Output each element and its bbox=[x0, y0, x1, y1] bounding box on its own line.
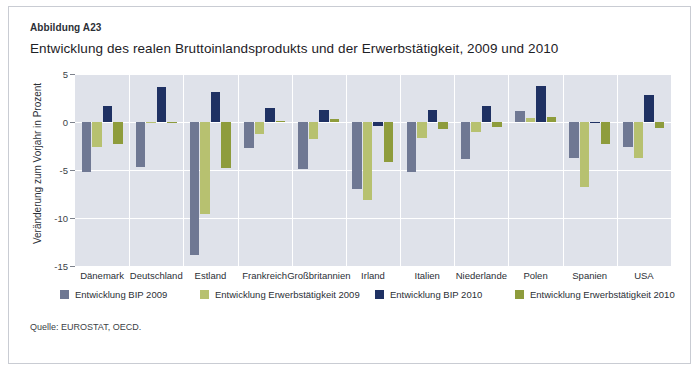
x-axis-label: Niederlande bbox=[456, 270, 507, 281]
legend-label: Entwicklung BIP 2009 bbox=[75, 289, 167, 300]
bar bbox=[461, 122, 471, 159]
bar bbox=[352, 122, 362, 189]
legend-item[interactable]: Entwicklung BIP 2010 bbox=[375, 289, 482, 300]
bar bbox=[471, 122, 481, 132]
chart-legend: Entwicklung BIP 2009Entwicklung Erwerbst… bbox=[60, 289, 680, 303]
gridline--15 bbox=[75, 266, 671, 267]
legend-swatch-icon bbox=[515, 290, 524, 299]
bar bbox=[515, 111, 525, 122]
source-note: Quelle: EUROSTAT, OECD. bbox=[30, 322, 141, 332]
bar-group bbox=[292, 74, 346, 266]
bar bbox=[167, 122, 177, 123]
legend-item[interactable]: Entwicklung Erwerbstätigkeit 2010 bbox=[515, 289, 675, 300]
bar bbox=[298, 122, 308, 169]
bar bbox=[492, 122, 502, 127]
bar bbox=[265, 108, 275, 122]
bar-group bbox=[454, 74, 508, 266]
bar bbox=[255, 122, 265, 134]
y-tick-label--15: -15 bbox=[42, 261, 68, 272]
bar bbox=[590, 122, 600, 123]
legend-swatch-icon bbox=[375, 290, 384, 299]
bar bbox=[417, 122, 427, 138]
bar bbox=[309, 122, 319, 139]
bar-group bbox=[617, 74, 671, 266]
legend-swatch-icon bbox=[200, 290, 209, 299]
bar bbox=[428, 110, 438, 122]
bar bbox=[569, 122, 579, 158]
bar-group bbox=[183, 74, 237, 266]
x-axis-label: Spanien bbox=[572, 270, 607, 281]
bar bbox=[634, 122, 644, 158]
x-axis-label: Italien bbox=[414, 270, 439, 281]
bar bbox=[580, 122, 590, 187]
legend-label: Entwicklung Erwerbstätigkeit 2009 bbox=[215, 289, 360, 300]
plot-area: DänemarkDeutschlandEstlandFrankreichGroß… bbox=[75, 74, 671, 266]
bar bbox=[319, 110, 329, 122]
legend-label: Entwicklung BIP 2010 bbox=[390, 289, 482, 300]
y-tick-label-0: 0 bbox=[42, 117, 68, 128]
y-tick-label--5: -5 bbox=[42, 165, 68, 176]
legend-item[interactable]: Entwicklung BIP 2009 bbox=[60, 289, 167, 300]
bar bbox=[103, 106, 113, 122]
bar-group bbox=[129, 74, 183, 266]
figure-container: Abbildung A23 Entwicklung des realen Bru… bbox=[0, 0, 699, 371]
y-tick-label-5: 5 bbox=[42, 69, 68, 80]
bar bbox=[190, 122, 200, 255]
x-axis-label: Irland bbox=[361, 270, 385, 281]
bar-group bbox=[563, 74, 617, 266]
bar bbox=[113, 122, 123, 144]
y-axis-title-holder: Veränderung zum Vorjahr in Prozent bbox=[22, 74, 42, 266]
x-axis-label: Großbritannien bbox=[287, 270, 350, 281]
bar bbox=[363, 122, 373, 200]
legend-swatch-icon bbox=[60, 290, 69, 299]
bar bbox=[157, 87, 167, 122]
x-axis-label: USA bbox=[634, 270, 654, 281]
legend-item[interactable]: Entwicklung Erwerbstätigkeit 2009 bbox=[200, 289, 360, 300]
x-axis-label: Deutschland bbox=[130, 270, 183, 281]
bar bbox=[200, 122, 210, 214]
figure-title: Entwicklung des realen Bruttoinlandsprod… bbox=[30, 41, 558, 56]
x-axis-label: Estland bbox=[195, 270, 227, 281]
bar-group bbox=[400, 74, 454, 266]
bar bbox=[244, 122, 254, 148]
bar bbox=[547, 117, 557, 122]
bar bbox=[211, 92, 221, 122]
bar bbox=[82, 122, 92, 172]
bar bbox=[438, 122, 448, 129]
bar-group bbox=[508, 74, 562, 266]
bar bbox=[276, 121, 286, 122]
bar bbox=[330, 119, 340, 122]
y-tick-label--10: -10 bbox=[42, 213, 68, 224]
x-axis-label: Polen bbox=[523, 270, 547, 281]
bar bbox=[221, 122, 231, 168]
bar bbox=[407, 122, 417, 172]
bar bbox=[136, 122, 146, 167]
legend-label: Entwicklung Erwerbstätigkeit 2010 bbox=[530, 289, 675, 300]
bar bbox=[601, 122, 611, 144]
bar bbox=[655, 122, 665, 128]
bar-group bbox=[75, 74, 129, 266]
bar bbox=[644, 95, 654, 122]
x-axis-label: Frankreich bbox=[242, 270, 287, 281]
bar bbox=[536, 86, 546, 122]
bar bbox=[373, 122, 383, 126]
bar bbox=[623, 122, 633, 147]
y-axis-title: Veränderung zum Vorjahr in Prozent bbox=[32, 0, 43, 349]
bar bbox=[384, 122, 394, 162]
bar bbox=[482, 106, 492, 122]
bar bbox=[146, 122, 156, 123]
bar-group bbox=[346, 74, 400, 266]
x-axis-label: Dänemark bbox=[80, 270, 124, 281]
bar bbox=[92, 122, 102, 147]
bar bbox=[526, 118, 536, 122]
bar-group bbox=[238, 74, 292, 266]
